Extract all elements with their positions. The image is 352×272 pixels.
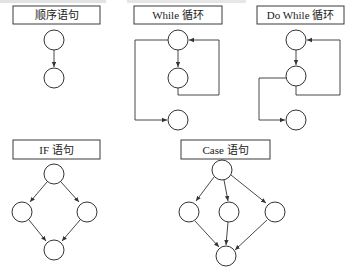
node-dowhile-condition (286, 66, 306, 86)
panel-if: IF 语句 (12, 140, 100, 260)
node-sequence-1 (44, 30, 64, 50)
node-if-else (77, 202, 97, 222)
node-while-exit (168, 110, 188, 130)
title-case: Case 语句 (202, 144, 248, 156)
title-while: While 循环 (152, 9, 204, 21)
node-case-branch-3 (265, 202, 285, 222)
control-flow-diagram: 顺序语句 While 循环 Do While 循环 (0, 0, 352, 272)
node-case-branch-1 (179, 202, 199, 222)
node-if-then (12, 202, 32, 222)
node-sequence-2 (44, 68, 64, 88)
title-box-sequence: 顺序语句 (13, 6, 100, 24)
node-case-merge (216, 246, 236, 266)
title-box-if: IF 语句 (13, 140, 100, 159)
node-while-body (168, 68, 188, 88)
node-case-branch-2 (219, 202, 239, 222)
node-if-condition (44, 164, 64, 184)
panel-sequence: 顺序语句 (13, 6, 100, 88)
title-if: IF 语句 (39, 144, 74, 156)
node-dowhile-body (286, 30, 306, 50)
node-dowhile-exit (286, 110, 306, 130)
title-box-case: Case 语句 (181, 140, 270, 159)
title-box-do-while: Do While 循环 (257, 6, 344, 24)
title-box-while: While 循环 (134, 6, 222, 24)
panel-case: Case 语句 (179, 140, 285, 266)
node-case-selector (212, 160, 232, 180)
panel-while: While 循环 (134, 6, 222, 130)
node-if-merge (44, 240, 64, 260)
title-sequence: 顺序语句 (35, 8, 79, 21)
panel-do-while: Do While 循环 (257, 6, 344, 130)
node-while-condition (168, 30, 188, 50)
title-do-while: Do While 循环 (267, 9, 335, 21)
